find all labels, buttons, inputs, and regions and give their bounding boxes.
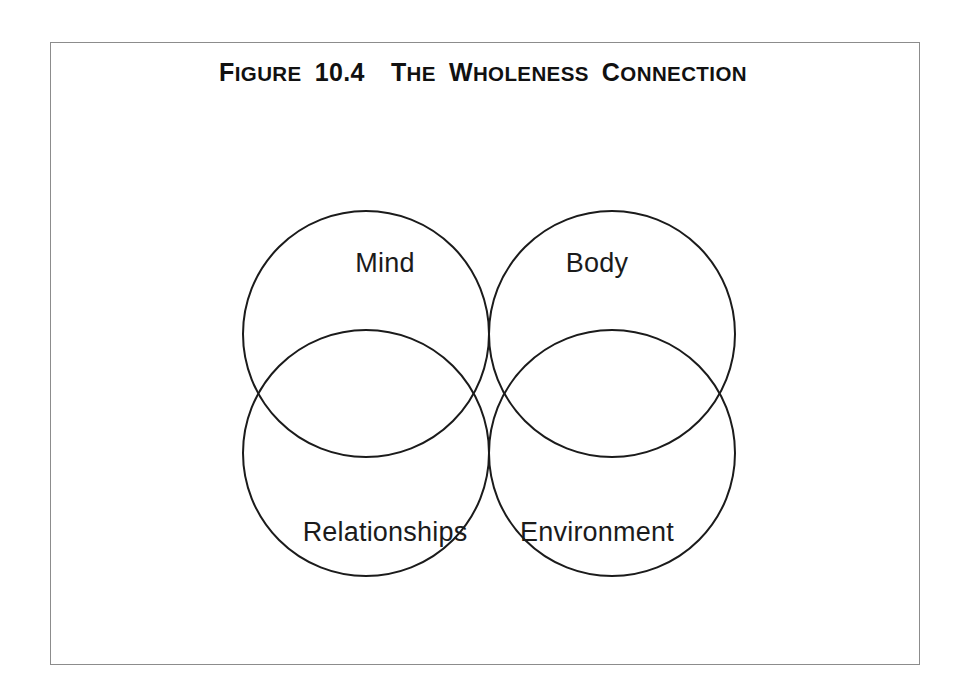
venn-label-body: Body xyxy=(566,248,629,278)
figure-page: FIGURE10.4THEWHOLENESSCONNECTION xyxy=(0,0,966,698)
venn-label-mind: Mind xyxy=(355,248,414,278)
venn-label-environment: Environment xyxy=(520,517,674,547)
venn-diagram-svg: Mind Body Relationships Environment xyxy=(0,0,966,698)
wholeness-core-region xyxy=(0,0,966,698)
venn-diagram: Mind Body Relationships Environment xyxy=(0,0,966,698)
venn-label-relationships: Relationships xyxy=(303,517,468,547)
